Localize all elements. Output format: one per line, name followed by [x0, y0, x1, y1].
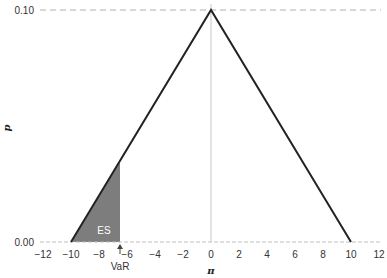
x-axis-label: π [206, 265, 215, 276]
chart: 0.10 0.00 p −12 −10 −8 −6 −4 −2 0 2 4 6 … [0, 0, 387, 278]
svg-text:−8: −8 [93, 249, 105, 260]
svg-text:12: 12 [373, 249, 385, 260]
svg-text:−10: −10 [63, 249, 80, 260]
es-label: ES [97, 225, 111, 236]
svg-text:6: 6 [292, 249, 298, 260]
svg-text:2: 2 [236, 249, 242, 260]
svg-text:−2: −2 [177, 249, 189, 260]
y-tick-0.10: 0.10 [15, 5, 35, 16]
svg-text:−6: −6 [121, 249, 133, 260]
svg-text:−4: −4 [149, 249, 161, 260]
svg-text:−12: −12 [35, 249, 52, 260]
y-tick-0.00: 0.00 [15, 237, 35, 248]
svg-text:4: 4 [264, 249, 270, 260]
svg-text:0: 0 [208, 249, 214, 260]
x-ticks: −12 −10 −8 −6 −4 −2 0 2 4 6 8 10 12 [35, 249, 385, 260]
var-label: VaR [111, 261, 130, 272]
y-axis-label: p [1, 125, 12, 132]
svg-text:8: 8 [320, 249, 326, 260]
svg-text:10: 10 [345, 249, 357, 260]
